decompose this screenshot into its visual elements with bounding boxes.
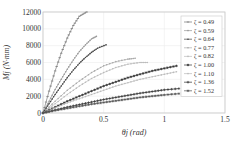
data-point [167, 93, 170, 96]
data-point [100, 67, 102, 69]
data-point [134, 57, 136, 59]
data-point [164, 73, 166, 75]
data-point [115, 99, 118, 102]
data-point [127, 76, 130, 79]
data-point [93, 89, 96, 92]
legend-label: ζ = 0.64 [194, 35, 214, 43]
data-point [76, 83, 78, 85]
data-point [54, 100, 56, 102]
y-tick-label: 2000 [26, 92, 41, 101]
data-point [76, 55, 78, 57]
data-point [59, 87, 61, 89]
data-point [96, 102, 99, 105]
data-point [127, 63, 129, 65]
data-point [133, 58, 135, 60]
data-point [50, 101, 52, 103]
data-point [154, 90, 157, 93]
legend-label: ζ = 0.59 [194, 27, 214, 35]
data-point [99, 99, 102, 102]
data-point [93, 102, 96, 105]
data-point [85, 76, 87, 78]
data-point [48, 103, 50, 105]
data-point [97, 68, 99, 70]
x-tick-label: 0.5 [99, 115, 109, 124]
data-point [106, 88, 108, 90]
data-point [130, 81, 132, 83]
data-point [147, 62, 149, 64]
data-point [91, 94, 93, 96]
data-point [121, 60, 123, 62]
data-point [63, 81, 65, 83]
legend-label: ζ = 1.52 [194, 87, 214, 95]
data-point [108, 97, 111, 100]
data-point [106, 64, 108, 66]
data-point [170, 72, 172, 74]
data-point [103, 72, 105, 74]
data-point [130, 93, 133, 96]
data-point [139, 79, 141, 81]
legend-label: ζ = 1.36 [194, 78, 214, 86]
data-point [84, 92, 87, 95]
y-axis-label: Mj (N·mm) [2, 45, 11, 81]
data-point [172, 65, 175, 68]
data-point [60, 79, 62, 81]
data-point [142, 92, 145, 95]
data-point [54, 103, 56, 105]
data-point [111, 97, 114, 100]
data-point [63, 73, 65, 75]
data-point [54, 107, 56, 109]
data-point [108, 83, 111, 86]
data-point [151, 70, 154, 73]
data-point [77, 53, 79, 55]
data-point [174, 93, 177, 96]
data-point [175, 65, 178, 68]
data-point [105, 98, 108, 101]
data-point [136, 62, 138, 64]
data-point [99, 86, 102, 89]
legend-label: ζ = 1.10 [194, 70, 214, 78]
data-point [73, 85, 75, 87]
data-point [88, 74, 90, 76]
data-point [154, 95, 157, 98]
data-point [145, 91, 148, 94]
data-point [82, 60, 84, 62]
data-point [101, 46, 103, 48]
data-point [71, 61, 73, 63]
data-point [50, 97, 52, 99]
series-7 [42, 87, 180, 114]
data-point [151, 95, 154, 98]
data-point [99, 47, 101, 49]
data-point [79, 85, 81, 87]
data-point [139, 96, 142, 99]
data-point [115, 85, 117, 87]
x-tick-labels: 00.511.5 [41, 115, 230, 124]
data-point [129, 58, 131, 60]
data-point [118, 84, 120, 86]
data-point [176, 71, 178, 73]
data-point [83, 46, 85, 48]
data-point [70, 64, 72, 66]
data-point [60, 98, 62, 100]
x-axis-label: θj (rad) [122, 128, 147, 137]
data-point [60, 95, 62, 97]
series-line [43, 66, 176, 113]
data-point [51, 98, 53, 100]
data-point [96, 87, 99, 90]
data-point [45, 108, 47, 110]
data-point [133, 93, 136, 96]
data-point [81, 94, 84, 97]
data-point [62, 83, 64, 85]
data-point [97, 47, 99, 49]
data-point [78, 105, 81, 108]
data-point [112, 62, 114, 64]
data-point [133, 63, 135, 65]
data-point [94, 76, 96, 78]
data-point [142, 78, 144, 80]
data-point [84, 104, 87, 107]
data-point [86, 43, 88, 45]
data-point [57, 106, 59, 108]
y-tick-label: 12000 [22, 8, 41, 17]
data-point [136, 97, 139, 100]
data-point [124, 64, 126, 66]
data-point [133, 97, 136, 100]
